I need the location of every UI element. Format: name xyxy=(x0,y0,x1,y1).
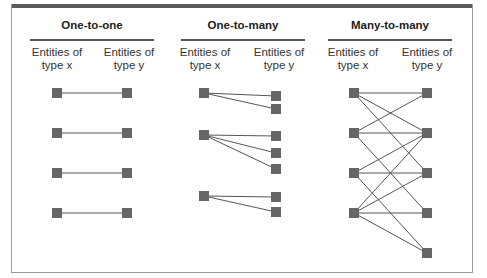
one-to-one-edges xyxy=(57,93,127,213)
many-to-many-edges xyxy=(354,93,427,253)
one-to-one-nodes xyxy=(52,88,132,218)
relationship-diagram xyxy=(0,0,487,278)
one-to-many-edges xyxy=(204,93,276,212)
